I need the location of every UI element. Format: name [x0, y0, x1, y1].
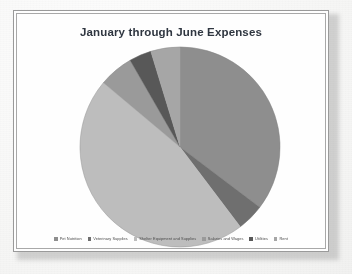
legend-swatch-icon: [202, 237, 206, 241]
legend-item-label: Shelter Equipment and Supplies: [139, 237, 196, 241]
legend-item-label: Utilities: [255, 237, 268, 241]
legend-item[interactable]: Rent: [274, 237, 288, 241]
legend-swatch-icon: [54, 237, 58, 241]
legend-swatch-icon: [249, 237, 253, 241]
legend-item-label: Rent: [279, 237, 287, 241]
legend-item[interactable]: Veterinary Supplies: [88, 237, 128, 241]
legend-item-label: Veterinary Supplies: [93, 237, 127, 241]
pie-slice-group: [80, 47, 280, 247]
legend-item[interactable]: Shelter Equipment and Supplies: [134, 237, 197, 241]
legend-swatch-icon: [88, 237, 92, 241]
pie-chart-svg: [17, 14, 326, 249]
legend-item-label: Salaries and Wages: [208, 237, 244, 241]
chart-legend: Pet NutritionVeterinary SuppliesShelter …: [17, 237, 325, 241]
chart-frame-inner: January through June Expenses Pet Nutrit…: [16, 13, 326, 249]
chart-frame: January through June Expenses Pet Nutrit…: [13, 10, 329, 252]
legend-item-label: Pet Nutrition: [60, 237, 82, 241]
pie-chart-plot-area: [17, 14, 325, 248]
legend-swatch-icon: [134, 237, 138, 241]
legend-item[interactable]: Utilities: [249, 237, 268, 241]
legend-swatch-icon: [274, 237, 278, 241]
legend-item[interactable]: Salaries and Wages: [202, 237, 243, 241]
legend-item[interactable]: Pet Nutrition: [54, 237, 82, 241]
